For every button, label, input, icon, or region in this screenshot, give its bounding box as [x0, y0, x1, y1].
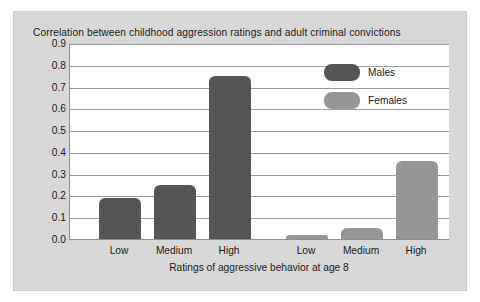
chart-legend: MalesFemales [316, 62, 442, 118]
y-axis-tick-label: 0.5 [52, 126, 66, 136]
x-axis-category-label: High [406, 242, 427, 260]
y-axis-tick-label: 0.8 [52, 61, 66, 71]
y-axis-tick-label: 0.3 [52, 170, 66, 180]
legend-swatch-females [324, 92, 360, 109]
plot-area: MalesFemales [69, 44, 449, 240]
x-axis-title: Ratings of aggressive behavior at age 8 [69, 260, 449, 276]
legend-swatch-males [324, 64, 360, 81]
bar-females-high [396, 161, 438, 239]
legend-item-females: Females [316, 90, 442, 111]
legend-item-males: Males [316, 62, 442, 83]
y-axis-tick-label: 0.9 [52, 39, 66, 49]
chart-container: Correlation between childhood aggression… [33, 24, 449, 280]
y-axis-tick-label: 0.1 [52, 213, 66, 223]
bar-males-low [99, 198, 141, 239]
bar-males-high [209, 76, 251, 239]
bar-females-medium [341, 228, 383, 239]
x-axis-category-labels: LowMediumHighLowMediumHigh [69, 242, 449, 260]
plot-wrapper: 0.00.10.20.30.40.50.60.70.80.9 MalesFema… [33, 44, 449, 280]
y-axis-tick-label: 0.7 [52, 83, 66, 93]
x-axis-category-label: Medium [343, 242, 379, 260]
bar-females-low [286, 235, 328, 239]
legend-label: Females [368, 90, 407, 111]
y-axis-tick-label: 0.2 [52, 191, 66, 201]
x-axis-category-label: Low [110, 242, 129, 260]
bar-males-medium [154, 185, 196, 239]
figure-frame: Correlation between childhood aggression… [13, 11, 467, 291]
x-axis-category-label: High [219, 242, 240, 260]
y-axis-tick-label: 0.0 [52, 235, 66, 245]
chart-title: Correlation between childhood aggression… [33, 24, 449, 42]
y-axis-tick-labels: 0.00.10.20.30.40.50.60.70.80.9 [33, 44, 69, 240]
x-axis-category-label: Medium [156, 242, 192, 260]
legend-label: Males [368, 62, 395, 83]
y-axis-tick-label: 0.4 [52, 148, 66, 158]
y-axis-tick-label: 0.6 [52, 104, 66, 114]
x-axis-category-label: Low [297, 242, 316, 260]
